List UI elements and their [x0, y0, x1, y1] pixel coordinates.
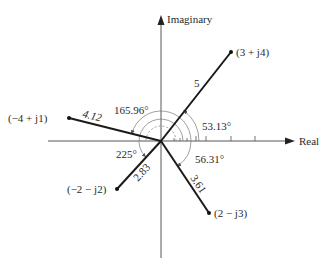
magnitude-label-5: 5 — [194, 77, 200, 89]
magnitude-label-3-61: 3.61 — [188, 172, 209, 195]
vector-minus4-plus-j1 — [69, 118, 161, 141]
angle-label-225: 225° — [116, 148, 137, 160]
real-axis-arrow-icon — [285, 138, 295, 145]
endpoint-dot-icon — [67, 116, 71, 120]
real-axis-label: Real — [299, 135, 319, 147]
endpoint-dot-icon — [115, 187, 119, 191]
imaginary-axis-label: Imaginary — [167, 13, 213, 25]
angle-label-53-13: 53.13° — [202, 120, 231, 132]
endpoint-dot-icon — [229, 50, 233, 54]
angle-label-56-31: 56.31° — [195, 153, 224, 165]
endpoint-dot-icon — [207, 211, 211, 215]
real-axis-ticks — [174, 136, 255, 141]
vector-label-minus2-minus-j2: (−2 − j2) — [67, 183, 107, 196]
vector-label-minus4-plus-j1: (−4 + j1) — [8, 112, 48, 125]
angle-arcs — [132, 111, 199, 166]
arc-53-13 — [184, 111, 199, 141]
vector-label-2-minus-j3: (2 − j3) — [214, 207, 247, 220]
complex-plane-diagram: Real Imaginary — [0, 0, 333, 268]
vector-label-3-plus-j4: (3 + j4) — [236, 46, 269, 59]
imaginary-axis-arrow-icon — [158, 15, 165, 25]
arc-56-31 — [178, 141, 191, 166]
angle-label-165-96: 165.96° — [114, 104, 149, 116]
magnitude-label-2-83: 2.83 — [131, 161, 153, 184]
real-axis — [48, 136, 295, 145]
